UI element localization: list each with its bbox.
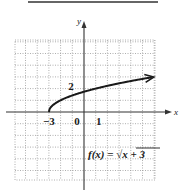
x-axis-label: x [173,107,178,117]
axes [6,21,172,190]
x-tick-label: 1 [96,115,102,127]
function-curve [49,77,152,112]
x-tick-label: 0 [74,115,80,127]
function-label: f(x) = √x + 3 [88,148,146,161]
function-graph: yx−3012f(x) = √x + 3 [0,0,182,193]
y-axis-label: y [76,16,81,26]
y-tick-label: 2 [68,80,74,92]
x-tick-label: −3 [43,115,55,127]
y-axis-arrow-icon [82,21,87,28]
curve-layer [49,75,154,112]
x-axis-arrow-icon [165,110,172,115]
